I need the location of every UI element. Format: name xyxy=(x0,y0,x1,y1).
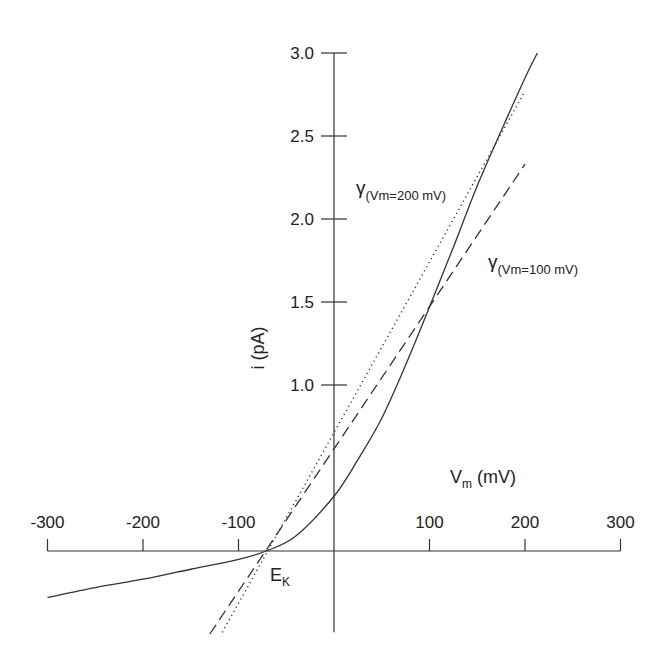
y-tick-label: 2.0 xyxy=(290,210,314,229)
ek-symbol: E xyxy=(270,565,282,585)
ek-label: EK xyxy=(270,565,290,589)
y-tick-label: 2.5 xyxy=(290,127,314,146)
axes: -300-200-1001002003001.01.52.02.53.0 xyxy=(30,44,634,632)
x-tick-label: -100 xyxy=(221,513,255,532)
x-tick-label: -200 xyxy=(126,513,160,532)
iv-chart: -300-200-1001002003001.01.52.02.53.0 Vm … xyxy=(0,0,669,666)
x-tick-label: 300 xyxy=(606,513,634,532)
series-dashed-line xyxy=(210,164,525,634)
y-tick-label: 1.5 xyxy=(290,293,314,312)
gamma-200-subscript: (Vm=200 mV) xyxy=(366,188,447,203)
x-tick-label: -300 xyxy=(30,513,64,532)
gamma-100-symbol: γ xyxy=(488,251,498,272)
ek-subscript: K xyxy=(282,575,290,589)
gamma-200-label: γ(Vm=200 mV) xyxy=(356,177,446,203)
y-tick-label: 3.0 xyxy=(290,44,314,63)
x-tick-label: 200 xyxy=(511,513,539,532)
gamma-200-symbol: γ xyxy=(356,177,366,198)
gamma-100-label: γ(Vm=100 mV) xyxy=(488,251,578,277)
x-axis-title-unit: (mV) xyxy=(472,467,516,487)
y-tick-label: 1.0 xyxy=(290,376,314,395)
x-axis-title-sub: m xyxy=(462,477,472,491)
x-axis-title-main: V xyxy=(450,467,462,487)
gamma-100-subscript: (Vm=100 mV) xyxy=(498,262,579,277)
x-tick-label: 100 xyxy=(415,513,443,532)
y-axis-title: i (pA) xyxy=(248,326,268,369)
x-axis-title: Vm (mV) xyxy=(450,467,516,491)
